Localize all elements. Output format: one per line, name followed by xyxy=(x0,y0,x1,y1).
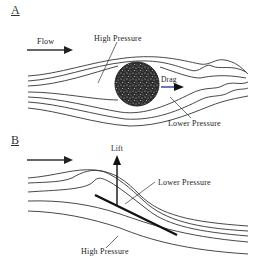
sphere-obstacle xyxy=(115,62,159,106)
drag-arrow-icon xyxy=(161,83,184,91)
panel-a-label: A xyxy=(11,4,20,16)
flow-label: Flow xyxy=(37,38,54,46)
high-pressure-label-b: High Pressure xyxy=(81,248,129,256)
lower-pressure-label-b: Lower Pressure xyxy=(158,179,211,187)
drag-label: Drag xyxy=(161,76,177,84)
high-pressure-label-a: High Pressure xyxy=(94,35,142,43)
panel-b-label: B xyxy=(11,134,19,146)
flow-arrow-b-icon xyxy=(27,156,73,164)
panel-b-diagram xyxy=(27,156,248,254)
lift-arrow-icon xyxy=(113,155,121,205)
lower-pressure-label-a: Lower Pressure xyxy=(168,120,221,128)
lift-label: Lift xyxy=(111,145,123,153)
flow-arrow-icon xyxy=(27,46,73,54)
